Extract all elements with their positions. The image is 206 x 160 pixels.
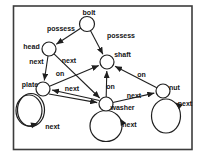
edge-label-washer-shaft: on [106,83,115,90]
diagram-frame [14,6,193,150]
diagram-canvas: boltheadshaftplatewashernutpossessposses… [0,0,206,160]
self-loop-label-plate: next [45,123,60,130]
node-shaft [100,55,114,69]
edge-label-head-washer: next [62,57,77,64]
edge-label-bolt-shaft: possess [107,32,135,40]
node-label-plate: plate [22,81,38,89]
node-label-washer: washer [109,104,134,111]
node-head [42,42,56,56]
edge-label-washer-nut: next [127,92,142,99]
node-label-bolt: bolt [83,9,96,16]
edge-label-nut-shaft: on [137,71,146,78]
self-loop-label-washer: next [122,121,137,128]
node-nut [156,84,170,98]
edge-label-plate-shaft: on [56,70,65,77]
edge-label-head-plate: next [29,58,44,65]
node-bolt [80,17,95,32]
node-label-nut: nut [169,84,181,91]
node-label-head: head [23,43,39,50]
self-loop-label-nut: next [178,100,193,107]
node-label-shaft: shaft [114,51,131,58]
semantic-network-diagram: boltheadshaftplatewashernutpossessposses… [0,0,206,160]
edge-label-bolt-head: possess [47,25,75,33]
edge-label-washer-plate: next [65,85,80,92]
